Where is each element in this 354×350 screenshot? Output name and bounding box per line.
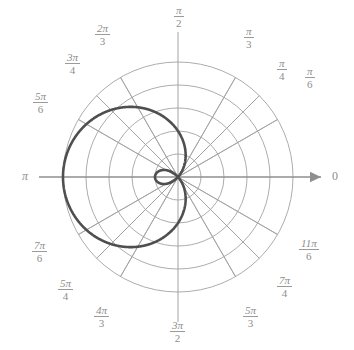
angle-label-denominator: 6 [33,103,48,115]
angle-label-denominator: 2 [170,332,185,344]
angle-label-2pi-over-3: 2π3 [95,23,110,47]
angle-label-pi-over-3: π3 [244,26,254,50]
angle-label-denominator: 4 [277,287,292,299]
angle-label-5pi-over-3: 5π3 [243,305,258,329]
polar-axis-arrow-icon [310,172,321,182]
angle-label-numerator: 5π [243,305,258,317]
angle-label-numerator: 7π [277,275,292,287]
angle-label-numerator: 5π [33,91,48,103]
angle-label-denominator: 6 [32,252,47,264]
angle-label-numerator: π [277,58,287,70]
angle-label-numerator: 11π [299,238,319,250]
angle-label-denominator: 3 [94,317,109,329]
angle-label-numerator: 3π [170,320,185,332]
angle-label-denominator: 3 [244,38,254,50]
angle-label-numerator: π [174,5,184,17]
angle-label-pi-over-6: π6 [305,66,315,90]
angle-label-5pi-over-4: 5π4 [58,278,73,302]
angle-label-numerator: 7π [32,240,47,252]
angle-label-3pi-over-2: 3π2 [170,320,185,344]
angle-label-denominator: 6 [305,78,315,90]
angle-label-zero: 0 [332,170,338,182]
angle-label-denominator: 3 [243,317,258,329]
arrowhead-icon [310,172,321,182]
angle-label-denominator: 2 [174,17,184,29]
angle-label-numerator: 3π [65,52,80,64]
angle-label-denominator: 4 [65,64,80,76]
angle-label-pi-over-4: π4 [277,58,287,82]
angle-label-pi: π [22,170,28,182]
angle-label-numerator: 4π [94,305,109,317]
angle-label-pi-over-2: π2 [174,5,184,29]
angle-label-denominator: 3 [95,35,110,47]
angle-label-5pi-over-6: 5π6 [33,91,48,115]
angle-label-11pi-over-6: 11π6 [299,238,319,262]
angle-label-denominator: 4 [58,290,73,302]
angle-label-denominator: 4 [277,70,287,82]
angle-label-numerator: π [244,26,254,38]
angle-label-numerator: 5π [58,278,73,290]
angle-label-7pi-over-6: 7π6 [32,240,47,264]
angle-label-denominator: 6 [299,250,319,262]
angle-label-3pi-over-4: 3π4 [65,52,80,76]
angle-label-7pi-over-4: 7π4 [277,275,292,299]
polar-plot-figure: π 0 π6π4π3π22π33π45π67π65π44π33π25π37π41… [0,0,354,350]
angle-label-4pi-over-3: 4π3 [94,305,109,329]
angle-label-numerator: π [305,66,315,78]
polar-plot-canvas [0,0,354,350]
angle-label-numerator: 2π [95,23,110,35]
